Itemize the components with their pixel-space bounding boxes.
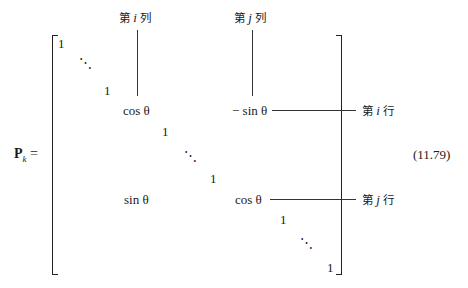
row-j-line	[270, 199, 356, 200]
entry-cos-jj: cos θ	[235, 193, 262, 207]
entry-one: 1	[210, 172, 217, 186]
label-var: j	[248, 10, 252, 25]
left-bracket	[52, 35, 58, 275]
label-var: j	[376, 192, 380, 207]
ddots-3: ⋱	[300, 236, 313, 249]
lhs-symbol: P	[14, 146, 23, 161]
entry-one: 1	[280, 213, 287, 227]
entry-neg-sin-ij: − sin θ	[232, 104, 267, 118]
label-suffix: 行	[383, 104, 394, 118]
entry-one: 1	[327, 261, 334, 275]
label-prefix: 第	[362, 193, 373, 207]
entry-one: 1	[58, 37, 65, 51]
equals-sign: =	[30, 146, 38, 161]
right-bracket	[336, 35, 342, 275]
label-suffix: 行	[383, 193, 394, 207]
lhs-label: Pk =	[14, 147, 38, 166]
row-i-label: 第 i 行	[362, 104, 394, 118]
label-var: i	[376, 103, 380, 118]
column-j-label: 第 j 列	[234, 11, 266, 25]
column-j-line	[252, 30, 253, 96]
label-var: i	[133, 10, 137, 25]
label-prefix: 第	[362, 104, 373, 118]
entry-cos-ii: cos θ	[123, 104, 150, 118]
equation-number: (11.79)	[413, 148, 450, 162]
entry-sin-ji: sin θ	[124, 193, 149, 207]
ddots-2: ⋱	[184, 149, 197, 162]
entry-one: 1	[104, 84, 111, 98]
row-j-label: 第 j 行	[362, 193, 394, 207]
row-i-line	[272, 110, 356, 111]
entry-one: 1	[162, 125, 169, 139]
label-prefix: 第	[234, 11, 245, 25]
column-i-line	[137, 30, 138, 96]
column-i-label: 第 i 列	[119, 11, 151, 25]
label-suffix: 列	[255, 11, 266, 25]
ddots-1: ⋱	[79, 56, 92, 69]
label-prefix: 第	[119, 11, 130, 25]
label-suffix: 列	[140, 11, 151, 25]
lhs-subscript: k	[23, 154, 27, 164]
